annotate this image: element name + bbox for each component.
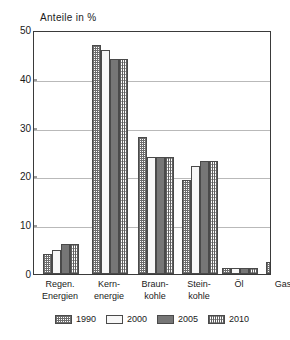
bar: [61, 244, 70, 274]
bar: [200, 161, 209, 274]
legend-item: 2010: [208, 315, 249, 324]
y-axis-tick-label: 10: [5, 221, 31, 231]
y-axis-tick-label: 20: [5, 172, 31, 182]
legend-swatch: [106, 315, 123, 324]
bar-group: [182, 32, 218, 274]
bar: [209, 161, 218, 274]
bar: [110, 59, 119, 274]
legend-swatch: [208, 315, 225, 324]
bar: [231, 268, 240, 274]
x-axis-label-line2: kohle: [169, 290, 229, 302]
y-axis: 01020304050: [0, 0, 31, 340]
legend-item: 2000: [106, 315, 147, 324]
bar: [70, 244, 79, 274]
bar: [240, 268, 249, 274]
bar-group: [266, 32, 271, 274]
legend-label: 2005: [178, 315, 198, 324]
y-axis-tick-mark: [33, 177, 37, 178]
legend-item: 2005: [157, 315, 198, 324]
bar: [165, 157, 174, 274]
y-axis-tick-label: 50: [5, 26, 31, 36]
bar: [101, 50, 110, 274]
bar: [147, 157, 156, 274]
chart-title: Anteile in %: [40, 12, 96, 23]
legend-item: 1990: [55, 315, 96, 324]
bar-group: [222, 32, 258, 274]
x-axis-category-label: Gas: [253, 278, 290, 290]
y-axis-tick-mark: [33, 128, 37, 129]
y-axis-tick-mark: [33, 79, 37, 80]
bar: [191, 166, 200, 274]
bar: [266, 262, 271, 274]
legend-swatch: [55, 315, 72, 324]
bar: [138, 137, 147, 274]
bar-group: [43, 32, 79, 274]
legend-label: 1990: [76, 315, 96, 324]
bar-chart: Anteile in % 01020304050 Regen.EnergienK…: [0, 0, 290, 340]
y-axis-tick-label: 30: [5, 124, 31, 134]
chart-legend: 1990200020052010: [33, 312, 271, 326]
y-axis-tick-label: 40: [5, 75, 31, 85]
bar: [249, 268, 258, 274]
legend-label: 2010: [229, 315, 249, 324]
bar: [43, 254, 52, 274]
bar: [222, 268, 231, 274]
y-axis-tick-label: 0: [5, 270, 31, 280]
x-axis-label-line1: Gas: [253, 278, 290, 290]
legend-label: 2000: [127, 315, 147, 324]
legend-swatch: [157, 315, 174, 324]
bar: [119, 59, 128, 274]
bar: [52, 250, 61, 274]
plot-area: [33, 31, 271, 275]
x-axis: Regen.EnergienKern-energieBraun-kohleSte…: [33, 278, 271, 310]
bar-group: [138, 32, 174, 274]
bar: [156, 157, 165, 274]
bar: [92, 45, 101, 274]
bar: [182, 180, 191, 274]
bar-group: [92, 32, 128, 274]
y-axis-tick-mark: [33, 226, 37, 227]
